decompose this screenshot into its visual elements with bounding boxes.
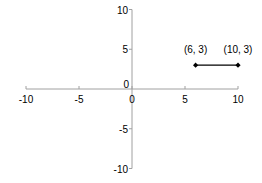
x-tick-label: 0 (129, 94, 135, 105)
point-label: (6, 3) (184, 44, 207, 55)
chart-canvas: -10-50510-10-50510(6, 3)(10, 3) (0, 0, 262, 183)
diamond-marker (193, 63, 198, 68)
point-label: (10, 3) (224, 44, 253, 55)
x-tick-label: 10 (232, 94, 244, 105)
y-tick-label: 5 (122, 44, 128, 55)
diamond-marker (235, 63, 240, 68)
y-tick-label: -10 (114, 164, 129, 175)
y-tick-label: -5 (119, 124, 128, 135)
y-tick-label: 10 (117, 5, 129, 16)
y-tick-label: 0 (123, 79, 129, 90)
x-tick-label: 5 (182, 94, 188, 105)
x-tick-label: -5 (75, 94, 84, 105)
x-tick-label: -10 (19, 94, 34, 105)
